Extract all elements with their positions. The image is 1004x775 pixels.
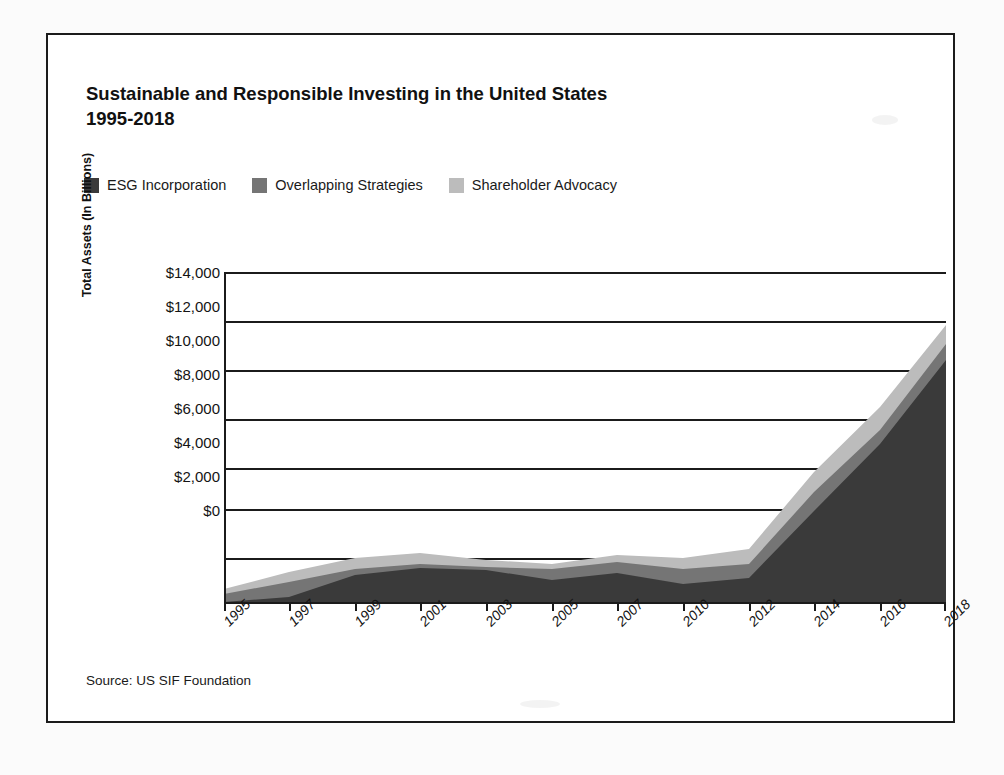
x-tick-1997: [289, 602, 291, 611]
y-tick-label-14000: $14,000: [112, 264, 220, 281]
figure-frame: Sustainable and Responsible Investing in…: [46, 33, 955, 723]
legend-label-overlapping-strategies: Overlapping Strategies: [275, 177, 423, 193]
chart-title: Sustainable and Responsible Investing in…: [86, 81, 786, 131]
scan-artifact: [872, 115, 898, 125]
legend-label-shareholder-advocacy: Shareholder Advocacy: [472, 177, 617, 193]
chart-title-line1: Sustainable and Responsible Investing in…: [86, 83, 607, 104]
x-tick-2016: [880, 602, 882, 611]
chart-legend: ESG Incorporation Overlapping Strategies…: [84, 175, 643, 195]
x-tick-2001: [420, 602, 422, 611]
legend-item-overlapping-strategies[interactable]: Overlapping Strategies: [252, 177, 423, 193]
y-tick-label-12000: $12,000: [112, 298, 220, 315]
legend-label-esg-incorporation: ESG Incorporation: [107, 177, 226, 193]
x-tick-2012: [749, 602, 751, 611]
legend-swatch-overlapping-strategies: [252, 178, 267, 193]
scan-artifact: [520, 700, 560, 708]
x-tick-1999: [355, 602, 357, 611]
legend-item-esg-incorporation[interactable]: ESG Incorporation: [84, 177, 226, 193]
legend-item-shareholder-advocacy[interactable]: Shareholder Advocacy: [449, 177, 617, 193]
x-tick-1995: [224, 602, 226, 611]
scanned-page: Sustainable and Responsible Investing in…: [0, 0, 1004, 775]
x-tick-2018: [944, 602, 946, 611]
y-tick-label-10000: $10,000: [112, 332, 220, 349]
plot-area: 1995 1997 1999 2001 2003 2005 2007 2010 …: [224, 272, 946, 604]
y-tick-label-0: $0: [112, 502, 220, 519]
x-tick-2007: [617, 602, 619, 611]
x-tick-2014: [814, 602, 816, 611]
y-tick-label-6000: $6,000: [112, 400, 220, 417]
x-tick-2003: [486, 602, 488, 611]
y-tick-label-2000: $2,000: [112, 468, 220, 485]
y-axis-line: [224, 272, 226, 604]
legend-swatch-shareholder-advocacy: [449, 178, 464, 193]
chart-figure: Sustainable and Responsible Investing in…: [48, 35, 953, 721]
stacked-area-series: [224, 272, 946, 604]
chart-title-line2: 1995-2018: [86, 106, 786, 131]
x-tick-2010: [683, 602, 685, 611]
y-axis-title: Total Assets (In Billions): [80, 115, 94, 335]
source-note: Source: US SIF Foundation: [86, 673, 251, 688]
x-tick-2005: [552, 602, 554, 611]
y-tick-label-8000: $8,000: [112, 366, 220, 383]
y-tick-label-4000: $4,000: [112, 434, 220, 451]
